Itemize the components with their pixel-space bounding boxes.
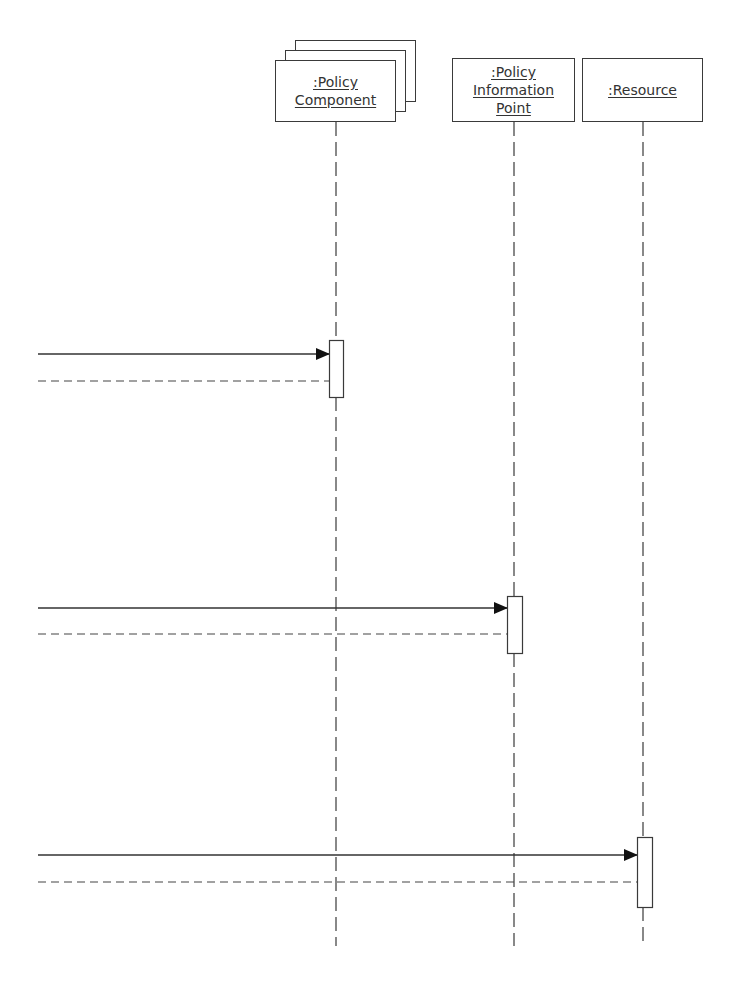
activation-bar-policy-component (330, 341, 344, 398)
activation-bar-resource (638, 838, 653, 908)
activation-bar-policy-information-point (508, 597, 523, 654)
diagram-lines (0, 0, 735, 987)
sequence-diagram: :Policy Component :Policy Information Po… (0, 0, 735, 987)
